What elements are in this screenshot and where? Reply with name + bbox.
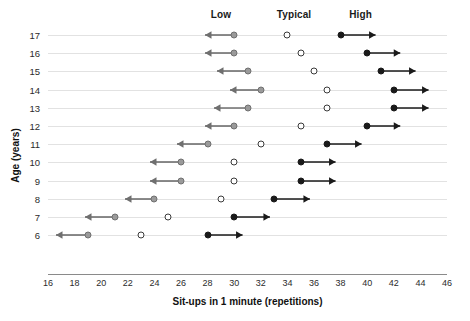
row-gridline <box>48 199 447 200</box>
typical-marker <box>231 159 238 166</box>
band-label-high: High <box>349 9 372 20</box>
high-marker <box>390 86 397 93</box>
x-axis-tick-label: 46 <box>442 278 452 288</box>
row-gridline <box>48 181 447 182</box>
low-marker <box>178 159 185 166</box>
x-axis-tick-label: 18 <box>70 278 80 288</box>
low-marker <box>244 68 251 75</box>
row-gridline <box>48 162 447 163</box>
y-axis-tick-label: 15 <box>18 66 40 77</box>
band-label-low: Low <box>211 9 231 20</box>
typical-marker <box>217 195 224 202</box>
typical-marker <box>324 86 331 93</box>
x-axis-tick-label: 30 <box>229 278 239 288</box>
low-marker <box>231 123 238 130</box>
y-axis-tick-label: 14 <box>18 84 40 95</box>
x-axis-tick-label: 40 <box>362 278 372 288</box>
high-marker <box>231 214 238 221</box>
typical-marker <box>231 177 238 184</box>
low-marker <box>231 50 238 57</box>
typical-marker <box>284 32 291 39</box>
typical-marker <box>164 214 171 221</box>
typical-marker <box>324 104 331 111</box>
row-gridline <box>48 144 447 145</box>
high-marker <box>364 123 371 130</box>
high-marker <box>364 50 371 57</box>
x-axis-tick-label: 42 <box>389 278 399 288</box>
x-axis-tick-label: 28 <box>203 278 213 288</box>
low-marker <box>111 214 118 221</box>
x-axis-tick-label: 32 <box>256 278 266 288</box>
typical-marker <box>311 68 318 75</box>
y-axis-tick-label: 8 <box>18 193 40 204</box>
x-axis-tick-label: 34 <box>282 278 292 288</box>
low-marker <box>84 232 91 239</box>
y-axis-tick-label: 11 <box>18 139 40 150</box>
low-marker <box>204 141 211 148</box>
y-axis-tick-label: 9 <box>18 175 40 186</box>
x-axis-tick-label: 38 <box>336 278 346 288</box>
high-marker <box>337 32 344 39</box>
x-axis-tick-label: 36 <box>309 278 319 288</box>
y-axis-tick-label: 6 <box>18 230 40 241</box>
sit-ups-range-chart: LowTypicalHigh 17161514131211109876 1618… <box>0 0 470 321</box>
x-axis-title: Sit-ups in 1 minute (repetitions) <box>172 296 322 307</box>
low-marker <box>244 104 251 111</box>
x-axis-tick-label: 26 <box>176 278 186 288</box>
band-label-typical: Typical <box>277 9 311 20</box>
low-marker <box>231 32 238 39</box>
typical-marker <box>297 123 304 130</box>
y-axis-tick-label: 17 <box>18 30 40 41</box>
x-axis-tick-label: 22 <box>123 278 133 288</box>
x-axis-line <box>48 274 447 275</box>
low-marker <box>151 195 158 202</box>
y-axis-tick-label: 7 <box>18 212 40 223</box>
typical-marker <box>138 232 145 239</box>
y-axis-title: Age (years) <box>10 128 21 182</box>
y-axis-tick-label: 12 <box>18 121 40 132</box>
high-marker <box>204 232 211 239</box>
high-marker <box>324 141 331 148</box>
y-axis-tick-label: 16 <box>18 48 40 59</box>
x-axis-tick-label: 24 <box>149 278 159 288</box>
low-marker <box>257 86 264 93</box>
y-axis-tick-label: 13 <box>18 102 40 113</box>
low-marker <box>178 177 185 184</box>
typical-marker <box>257 141 264 148</box>
high-marker <box>390 104 397 111</box>
y-axis-tick-label: 10 <box>18 157 40 168</box>
typical-marker <box>297 50 304 57</box>
high-marker <box>271 195 278 202</box>
x-axis-tick-label: 20 <box>96 278 106 288</box>
high-marker <box>297 159 304 166</box>
high-marker <box>297 177 304 184</box>
x-axis-tick-label: 16 <box>43 278 53 288</box>
x-axis-tick-label: 44 <box>415 278 425 288</box>
row-gridline <box>48 35 447 36</box>
high-marker <box>377 68 384 75</box>
